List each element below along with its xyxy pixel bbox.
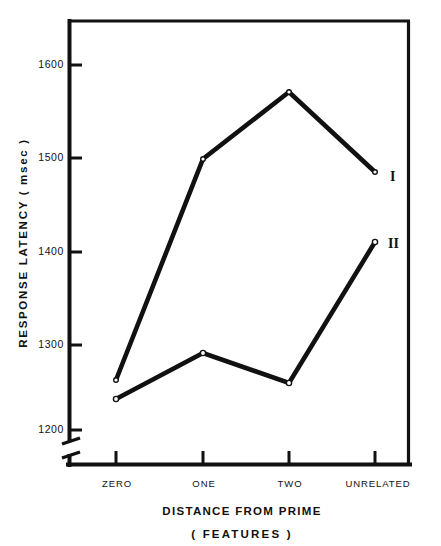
series-ii-line xyxy=(116,242,375,399)
series-i-label: I xyxy=(390,169,395,184)
chart-figure: 1600 1500 1400 1300 1200 ZERO ONE TWO UN… xyxy=(0,0,441,546)
y-tick-label-1600: 1600 xyxy=(38,58,64,70)
x-tick-label-unrelated: UNRELATED xyxy=(346,478,411,489)
series-i-point-zero xyxy=(114,378,119,383)
series-ii-point-two xyxy=(286,380,291,385)
series-ii-label: II xyxy=(388,236,399,251)
y-axis-break-icon xyxy=(62,438,80,458)
series-i-line xyxy=(116,92,375,380)
x-tick-label-zero: ZERO xyxy=(102,478,132,489)
x-axis-subtitle: ( FEATURES ) xyxy=(191,528,293,540)
series-i-group xyxy=(114,90,378,383)
y-tick-label-1400: 1400 xyxy=(38,245,64,257)
series-i-point-unrelated xyxy=(373,170,378,175)
y-axis-tick-labels: 1600 1500 1400 1300 1200 xyxy=(38,58,64,435)
x-axis-tick-labels: ZERO ONE TWO UNRELATED xyxy=(102,478,410,489)
series-ii-point-zero xyxy=(113,396,118,401)
series-ii-group xyxy=(113,239,377,401)
series-i-point-two xyxy=(287,90,292,95)
x-axis-ticks xyxy=(116,451,375,464)
line-chart-canvas: 1600 1500 1400 1300 1200 ZERO ONE TWO UN… xyxy=(0,0,441,546)
y-tick-label-1200: 1200 xyxy=(38,423,64,435)
y-axis-title: RESPONSE LATENCY ( msec ) xyxy=(17,138,29,348)
x-tick-label-one: ONE xyxy=(192,478,215,489)
x-tick-label-two: TWO xyxy=(278,478,303,489)
series-i-point-one xyxy=(201,157,206,162)
series-ii-point-unrelated xyxy=(372,239,377,244)
x-axis-title: DISTANCE FROM PRIME xyxy=(162,505,321,517)
y-tick-label-1500: 1500 xyxy=(38,151,64,163)
y-tick-label-1300: 1300 xyxy=(38,338,64,350)
series-ii-point-one xyxy=(200,350,205,355)
